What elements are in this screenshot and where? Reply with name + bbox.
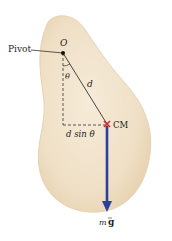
rigid-body xyxy=(38,16,150,212)
pivot-point xyxy=(61,51,65,55)
origin-label: O xyxy=(60,39,67,48)
lever-arm-label: d sin θ xyxy=(66,130,95,139)
center-of-mass-label: CM xyxy=(113,121,128,130)
distance-label: d xyxy=(87,80,93,89)
pivot-label: Pivot xyxy=(8,45,31,54)
force-label-g: g xyxy=(108,218,114,227)
force-label-m: m xyxy=(99,219,107,227)
angle-label: θ xyxy=(65,73,70,81)
diagram-canvas xyxy=(0,0,172,241)
